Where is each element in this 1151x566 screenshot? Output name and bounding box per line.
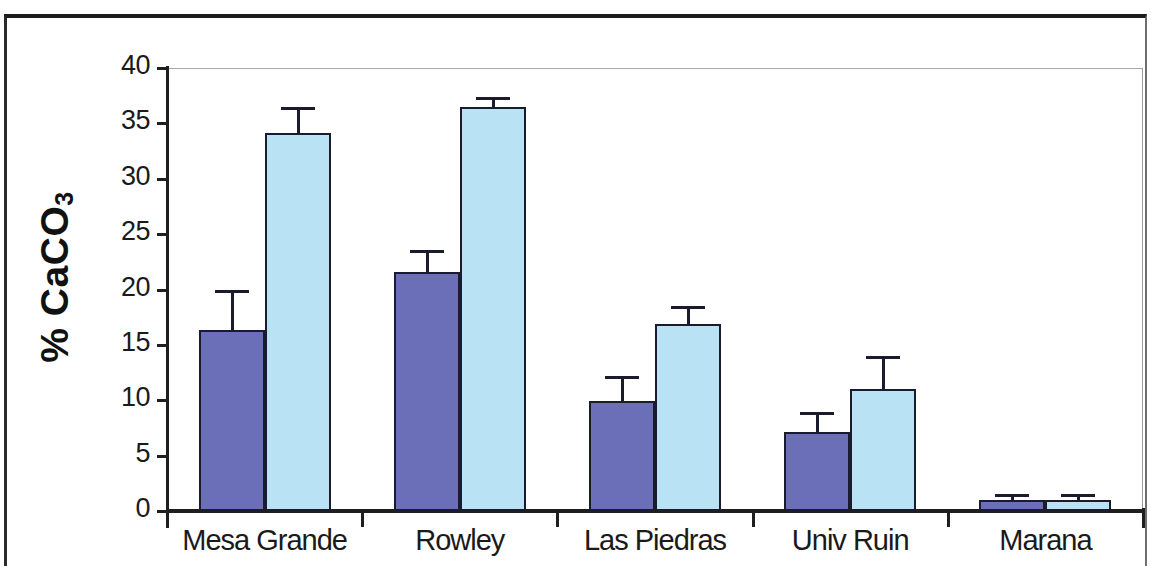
bar xyxy=(1045,500,1111,511)
error-bar-stem xyxy=(621,376,624,401)
error-bar-cap xyxy=(605,376,639,379)
x-axis-category-label: Rowley xyxy=(362,524,557,557)
error-bar-stem xyxy=(297,107,300,134)
bar xyxy=(265,133,331,511)
error-bar-stem xyxy=(231,290,234,331)
error-bar-cap xyxy=(800,412,834,415)
error-bar-cap xyxy=(215,290,249,293)
bar xyxy=(979,500,1045,511)
error-bar-cap xyxy=(671,306,705,309)
x-axis-category-label: Marana xyxy=(948,524,1143,557)
error-bar-cap xyxy=(1061,494,1095,497)
figure-canvas: % CaCO3 0510152025303540 Mesa GrandeRowl… xyxy=(0,0,1151,566)
bar xyxy=(655,324,721,511)
bar xyxy=(460,107,526,511)
x-axis-category-label: Univ Ruin xyxy=(753,524,948,557)
bars-layer xyxy=(0,0,1151,511)
bar xyxy=(784,432,850,511)
bar xyxy=(589,401,655,511)
x-axis-category-label: Las Piedras xyxy=(557,524,752,557)
error-bar-stem xyxy=(426,250,429,272)
error-bar-stem xyxy=(882,356,885,389)
error-bar-cap xyxy=(410,250,444,253)
error-bar-cap xyxy=(281,107,315,110)
error-bar-cap xyxy=(476,97,510,100)
bar xyxy=(850,389,916,511)
bar xyxy=(394,272,460,511)
error-bar-cap xyxy=(995,494,1029,497)
x-axis-category-label: Mesa Grande xyxy=(167,524,362,557)
error-bar-cap xyxy=(866,356,900,359)
bar xyxy=(199,330,265,511)
